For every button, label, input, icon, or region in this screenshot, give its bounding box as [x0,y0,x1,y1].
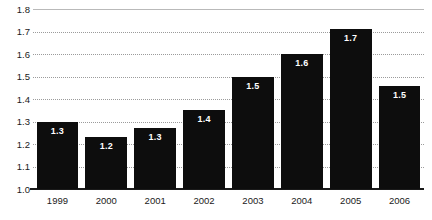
bar-2005[interactable]: 1.7 [330,29,372,189]
y-axis-tick-label: 1.2 [4,140,30,149]
y-axis-tick-label: 1.0 [4,185,30,194]
x-axis-tick-label-2002: 2002 [180,195,229,206]
bar-value-label: 1.5 [232,82,274,91]
bar-2004[interactable]: 1.6 [281,54,323,189]
clipped-header-text [0,0,432,7]
bar-value-label: 1.2 [85,142,127,151]
bar-2003[interactable]: 1.5 [232,77,274,190]
x-axis-tick-label-2000: 2000 [82,195,131,206]
x-axis-tick-label-2004: 2004 [277,195,326,206]
bar-value-label: 1.7 [330,34,372,43]
bar-2001[interactable]: 1.3 [134,128,176,189]
bar-2002[interactable]: 1.4 [183,110,225,189]
x-axis-tick-label-2005: 2005 [326,195,375,206]
bar-value-label: 1.6 [281,59,323,68]
y-axis-tick-label: 1.5 [4,72,30,81]
bar-chart: 1.81.71.61.51.41.31.21.11.0 1.31.21.31.4… [0,0,432,220]
x-axis-tick-label-2003: 2003 [229,195,278,206]
x-axis-tick-label-1999: 1999 [33,195,82,206]
y-axis-tick-label: 1.8 [4,5,30,14]
bar-1999[interactable]: 1.3 [37,122,79,190]
bar-series: 1.31.21.31.41.51.61.71.5 [33,9,424,189]
bar-value-label: 1.3 [134,133,176,142]
bar-value-label: 1.4 [183,115,225,124]
x-axis-tick-label-2006: 2006 [375,195,424,206]
y-axis: 1.81.71.61.51.41.31.21.11.0 [0,9,30,189]
bar-value-label: 1.5 [379,91,421,100]
bar-2006[interactable]: 1.5 [379,86,421,190]
y-axis-tick-label: 1.1 [4,162,30,171]
x-axis: 19992000200120022003200420052006 [33,195,424,213]
y-axis-tick-label: 1.6 [4,50,30,59]
y-axis-tick-label: 1.3 [4,117,30,126]
x-axis-tick-label-2001: 2001 [131,195,180,206]
bar-2000[interactable]: 1.2 [85,137,127,189]
bar-value-label: 1.3 [37,127,79,136]
y-axis-tick-label: 1.4 [4,95,30,104]
y-axis-tick-label: 1.7 [4,27,30,36]
